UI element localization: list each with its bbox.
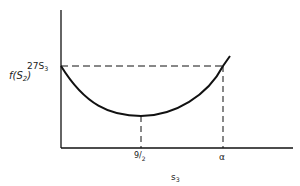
y-tick-main: 27S	[27, 61, 44, 71]
y-tick-sub: 3	[44, 65, 48, 72]
function-curve	[61, 56, 230, 116]
x-tick-alpha-label: α	[219, 152, 225, 162]
x-axis-label: s3	[171, 172, 180, 183]
fraction-denominator: 2	[142, 155, 146, 162]
x-axis-label-sub: 3	[176, 176, 180, 183]
y-tick-label: 27S3	[27, 61, 48, 72]
y-axis-label-main: f(S	[9, 70, 23, 81]
diagram-canvas	[0, 0, 300, 186]
x-tick-minimum-label: 9/2	[134, 151, 146, 162]
